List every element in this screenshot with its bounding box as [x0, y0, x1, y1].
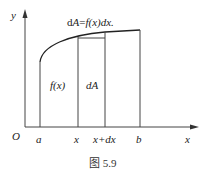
x-axis-label: x [184, 133, 190, 145]
area-element-diagram: dA=f(x)dx. f(x) dA y x O a x x+dx b 图 5.… [0, 0, 209, 181]
y-axis-arrow-icon [23, 9, 28, 18]
x-axis-arrow-icon [190, 125, 199, 130]
tick-label-x: x [73, 133, 79, 145]
origin-label: O [12, 130, 20, 142]
label-dA: dA [86, 79, 99, 91]
y-axis-label: y [10, 9, 16, 21]
tick-label-a: a [36, 133, 42, 145]
tick-label-b: b [136, 133, 142, 145]
function-curve [40, 30, 140, 62]
area-element-formula: dA=f(x)dx. [67, 16, 114, 29]
tick-label-x-plus-dx: x+dx [92, 133, 116, 145]
label-fx: f(x) [50, 79, 66, 92]
figure-caption: 图 5.9 [89, 157, 117, 169]
